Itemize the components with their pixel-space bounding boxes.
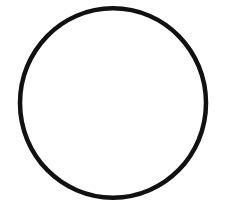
circle-figure: Black circle outline on a white backgrou… — [0, 0, 230, 216]
background-rect — [0, 0, 230, 216]
image-canvas: Black circle outline on a white backgrou… — [0, 0, 230, 216]
